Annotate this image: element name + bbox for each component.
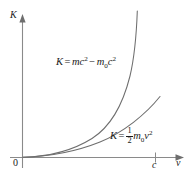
x-tick-label-c: c [152, 160, 156, 170]
eq-rel-term1-base: mc [72, 56, 84, 67]
plot-area [0, 0, 189, 189]
origin-label: 0 [13, 158, 18, 168]
eq-rel-minus: − [88, 56, 97, 67]
y-axis-label: K [10, 10, 17, 20]
eq-rel-lhs: K [56, 56, 63, 67]
eq-cls-fraction: 12 [126, 127, 132, 145]
eq-rel-term2-exponent: 2 [113, 55, 117, 63]
eq-cls-fraction-numerator: 1 [126, 127, 132, 136]
eq-cls-velocity-exponent: 2 [149, 129, 153, 137]
x-axis-label: v [176, 158, 180, 168]
eq-cls-fraction-denominator: 2 [126, 136, 132, 146]
eq-cls-lhs: K [110, 130, 117, 141]
equation-relativistic: K=mc2−m0c2 [56, 56, 116, 67]
eq-rel-equals: = [63, 56, 72, 67]
equation-classical: K=12m0v2 [110, 127, 153, 145]
eq-cls-equals: = [117, 130, 126, 141]
y-axis-arrowhead [19, 14, 25, 23]
eq-cls-mass: m [133, 130, 141, 141]
kinetic-energy-figure: K v 0 c K=mc2−m0c2 K=12m0v2 [0, 0, 189, 189]
